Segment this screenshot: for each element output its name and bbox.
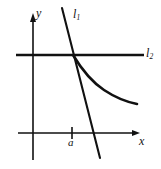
figure-canvas bbox=[0, 0, 161, 169]
line-l1-label: l1 bbox=[73, 8, 80, 20]
x-axis bbox=[18, 130, 140, 136]
x-axis-label: x bbox=[139, 135, 144, 147]
line-l2-label-subscript: 2 bbox=[149, 52, 153, 61]
line-l2-label: l2 bbox=[146, 47, 153, 59]
math-figure: y x a l1 l2 bbox=[0, 0, 161, 169]
exponential-curve bbox=[73, 55, 137, 104]
y-axis bbox=[30, 13, 36, 160]
y-axis-label: y bbox=[36, 7, 41, 19]
tick-label-a: a bbox=[68, 137, 74, 148]
line-l1-label-subscript: 1 bbox=[76, 13, 80, 22]
